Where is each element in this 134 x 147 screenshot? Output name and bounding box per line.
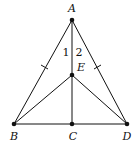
tick-marks <box>41 65 101 69</box>
label-B: B <box>9 130 18 143</box>
label-D: D <box>122 130 132 143</box>
segment-AB <box>14 20 72 124</box>
point-B <box>12 122 17 127</box>
point-E <box>70 73 75 78</box>
geometry-diagram: A E B C D 1 2 <box>0 0 134 147</box>
angle-label-1: 1 <box>63 46 70 59</box>
segments <box>14 20 127 124</box>
label-A: A <box>67 2 76 15</box>
label-E: E <box>76 61 85 74</box>
label-C: C <box>69 130 78 143</box>
segment-DE <box>72 75 127 124</box>
point-D <box>125 122 130 127</box>
point-A <box>70 18 75 23</box>
angle-label-2: 2 <box>76 46 83 59</box>
segment-BE <box>14 75 72 124</box>
point-C <box>70 122 75 127</box>
